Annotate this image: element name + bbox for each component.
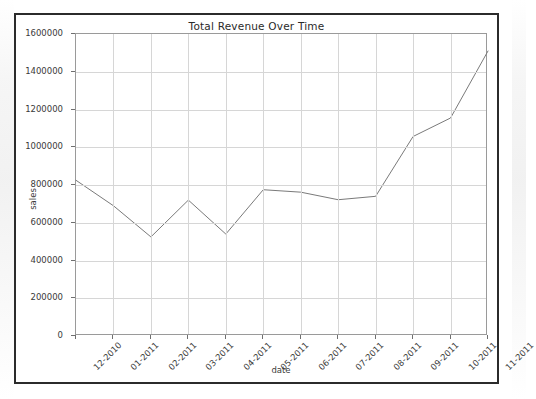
gridline-vertical [338,34,339,334]
gridline-horizontal [76,223,486,224]
x-tick-mark [75,335,76,339]
y-tick-label: 1000000 [25,141,63,151]
x-tick-mark [450,335,451,339]
y-tick-label: 800000 [31,179,63,189]
y-tick-label: 0 [58,330,63,340]
gridline-vertical [188,34,189,334]
gridline-horizontal [76,110,486,111]
x-tick-mark [225,335,226,339]
gridline-horizontal [76,298,486,299]
x-tick-mark [262,335,263,339]
gridline-horizontal [76,72,486,73]
x-tick-mark [375,335,376,339]
scan-edge-artifact-left [0,0,14,399]
x-axis-label: date [75,365,487,375]
gridline-horizontal [76,147,486,148]
y-tick-label: 200000 [31,292,63,302]
y-tick-label: 1200000 [25,104,63,114]
y-tick-label: 1600000 [25,28,63,38]
figure-canvas: Total Revenue Over Time sales 0200000400… [16,15,497,382]
gridline-vertical [263,34,264,334]
plot-area [75,33,487,335]
y-tick-label: 400000 [31,255,63,265]
gridline-vertical [413,34,414,334]
x-tick-mark [112,335,113,339]
gridline-horizontal [76,185,486,186]
sales-line-path [76,51,488,237]
x-tick-mark [150,335,151,339]
gridline-vertical [376,34,377,334]
x-tick-mark-group [75,335,487,339]
gridline-horizontal [76,261,486,262]
chart-title: Total Revenue Over Time [16,20,497,32]
x-tick-mark [300,335,301,339]
gridline-vertical [113,34,114,334]
y-tick-label: 1400000 [25,66,63,76]
figure-frame: Total Revenue Over Time sales 0200000400… [14,13,499,384]
x-tick-mark [412,335,413,339]
y-tick-label-group: 0200000400000600000800000100000012000001… [16,33,71,335]
x-tick-mark [337,335,338,339]
gridline-vertical [226,34,227,334]
scan-edge-artifact-right [512,0,526,399]
x-tick-mark [187,335,188,339]
x-tick-mark [487,335,488,339]
y-tick-label: 600000 [31,217,63,227]
gridline-vertical [301,34,302,334]
gridline-vertical [451,34,452,334]
gridline-vertical [151,34,152,334]
x-tick-label-group: 12-201001-201102-201103-201104-201105-20… [16,340,501,385]
